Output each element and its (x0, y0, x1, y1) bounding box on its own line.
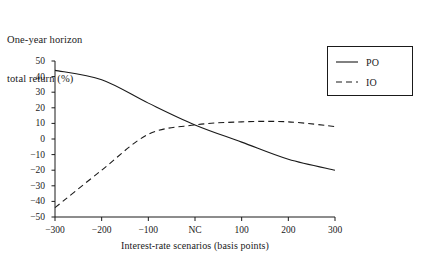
y-tick-label: 0 (15, 134, 45, 144)
series-line-io (55, 121, 335, 207)
series-line-po (55, 70, 335, 170)
x-tick-label: NC (175, 225, 215, 235)
y-tick-label: 10 (15, 118, 45, 128)
chart-figure: One-year horizon total return (%) −50−40… (0, 0, 424, 266)
x-axis-title: Interest-rate scenarios (basis points) (55, 240, 335, 251)
x-tick-label: 300 (315, 225, 355, 235)
y-tick-label: 40 (15, 72, 45, 82)
x-tick-label: 100 (222, 225, 262, 235)
x-tick-label: −300 (35, 225, 75, 235)
legend-label-po: PO (366, 57, 379, 68)
x-tick-label: −200 (82, 225, 122, 235)
legend-swatch-dashed-icon (336, 77, 358, 87)
legend-swatch-solid-icon (336, 57, 358, 67)
legend: PO IO (327, 46, 413, 96)
legend-item-io: IO (336, 75, 377, 89)
y-tick-label: 20 (15, 103, 45, 113)
y-tick-label: −30 (15, 181, 45, 191)
y-tick-label: −20 (15, 165, 45, 175)
legend-label-io: IO (366, 77, 377, 88)
legend-item-po: PO (336, 55, 379, 69)
x-tick-label: −100 (128, 225, 168, 235)
y-tick-label: −10 (15, 150, 45, 160)
y-axis-title-line-1: One-year horizon (7, 33, 82, 46)
y-tick-label: 30 (15, 87, 45, 97)
y-tick-label: 50 (15, 56, 45, 66)
x-tick-label: 200 (268, 225, 308, 235)
y-tick-label: −50 (15, 212, 45, 222)
y-tick-label: −40 (15, 196, 45, 206)
